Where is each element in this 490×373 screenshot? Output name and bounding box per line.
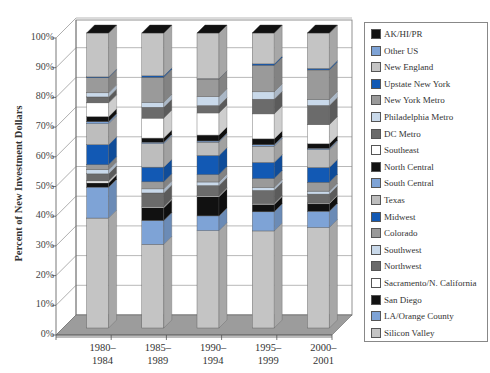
legend-item: Colorado bbox=[371, 226, 418, 240]
legend-label: North Central bbox=[384, 162, 434, 172]
x-tick-label: 1980–1984 bbox=[78, 341, 128, 367]
legend-item: New York Metro bbox=[371, 93, 445, 107]
legend-swatch-icon bbox=[371, 245, 381, 255]
legend-label: Southeast bbox=[384, 145, 419, 155]
y-tick-label: 10% bbox=[24, 298, 54, 309]
legend-swatch-icon bbox=[371, 145, 381, 155]
legend-swatch-icon bbox=[371, 112, 381, 122]
legend-swatch-icon bbox=[371, 295, 381, 305]
legend-item: North Central bbox=[371, 160, 434, 174]
legend-swatch-icon bbox=[371, 328, 381, 338]
y-tick-label: 30% bbox=[24, 239, 54, 250]
legend-label: South Central bbox=[384, 178, 434, 188]
legend-item: Silicon Valley bbox=[371, 326, 435, 340]
legend-item: South Central bbox=[371, 176, 434, 190]
legend-item: Texas bbox=[371, 193, 405, 207]
legend-swatch-icon bbox=[371, 212, 381, 222]
y-tick-label: 60% bbox=[24, 150, 54, 161]
legend-item: AK/HI/PR bbox=[371, 27, 423, 41]
legend-label: Midwest bbox=[384, 212, 416, 222]
legend-swatch-icon bbox=[371, 46, 381, 56]
legend-label: San Diego bbox=[384, 295, 422, 305]
legend-item: Upstate New York bbox=[371, 77, 450, 91]
bar-1980–1984 bbox=[87, 25, 117, 328]
legend-swatch-icon bbox=[371, 228, 381, 238]
legend-label: Upstate New York bbox=[384, 79, 450, 89]
legend-label: Other US bbox=[384, 46, 418, 56]
legend-item: Southeast bbox=[371, 143, 419, 157]
legend-item: Sacramento/N. California bbox=[371, 276, 476, 290]
x-tick-label: 1990–1994 bbox=[188, 341, 238, 367]
legend-label: AK/HI/PR bbox=[384, 29, 423, 39]
y-tick-label: 0% bbox=[24, 328, 54, 339]
legend-label: Philadelphia Metro bbox=[384, 112, 453, 122]
legend-item: DC Metro bbox=[371, 127, 421, 141]
bar-1985–1989 bbox=[142, 25, 172, 328]
legend-swatch-icon bbox=[371, 162, 381, 172]
legend-swatch-icon bbox=[371, 129, 381, 139]
legend-label: LA/Orange County bbox=[384, 311, 454, 321]
legend-label: Silicon Valley bbox=[384, 328, 435, 338]
x-tick-label: 2000–2001 bbox=[298, 341, 348, 367]
legend-swatch-icon bbox=[371, 178, 381, 188]
bar-1995–1999 bbox=[252, 25, 282, 328]
legend-swatch-icon bbox=[371, 261, 381, 271]
legend-swatch-icon bbox=[371, 95, 381, 105]
legend-label: Colorado bbox=[384, 228, 418, 238]
legend-item: New England bbox=[371, 60, 433, 74]
legend-swatch-icon bbox=[371, 62, 381, 72]
chart-plot-area bbox=[0, 0, 360, 373]
legend-swatch-icon bbox=[371, 79, 381, 89]
y-tick-label: 40% bbox=[24, 209, 54, 220]
legend-item: San Diego bbox=[371, 293, 422, 307]
y-tick-label: 20% bbox=[24, 269, 54, 280]
legend-swatch-icon bbox=[371, 311, 381, 321]
x-tick-label: 1995–1999 bbox=[243, 341, 293, 367]
y-tick-label: 100% bbox=[24, 31, 54, 42]
y-tick-label: 80% bbox=[24, 90, 54, 101]
legend-label: Sacramento/N. California bbox=[384, 278, 476, 288]
y-tick-label: 90% bbox=[24, 61, 54, 72]
legend-label: Southwest bbox=[384, 245, 422, 255]
legend-label: Texas bbox=[384, 195, 405, 205]
chart-legend: AK/HI/PROther USNew EnglandUpstate New Y… bbox=[364, 22, 488, 342]
y-tick-label: 50% bbox=[24, 180, 54, 191]
legend-label: New York Metro bbox=[384, 95, 445, 105]
legend-item: Midwest bbox=[371, 210, 416, 224]
legend-item: Southwest bbox=[371, 243, 422, 257]
legend-label: DC Metro bbox=[384, 129, 421, 139]
legend-item: Other US bbox=[371, 44, 418, 58]
legend-item: Philadelphia Metro bbox=[371, 110, 453, 124]
legend-item: LA/Orange County bbox=[371, 309, 454, 323]
y-tick-label: 70% bbox=[24, 120, 54, 131]
bar-2000–2001 bbox=[307, 25, 337, 328]
x-tick-label: 1985–1989 bbox=[133, 341, 183, 367]
legend-swatch-icon bbox=[371, 195, 381, 205]
legend-item: Northwest bbox=[371, 259, 422, 273]
legend-swatch-icon bbox=[371, 278, 381, 288]
legend-swatch-icon bbox=[371, 29, 381, 39]
legend-label: Northwest bbox=[384, 261, 422, 271]
bar-1990–1994 bbox=[197, 25, 227, 328]
legend-label: New England bbox=[384, 62, 433, 72]
